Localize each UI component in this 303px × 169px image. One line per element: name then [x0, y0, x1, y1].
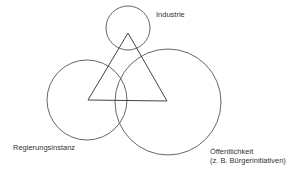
regierungsinstanz-label: Regierungsinstanz: [13, 143, 75, 152]
oeffentlichkeit-label: Öffentlichkeit (z. B. Bürgerinitiativen): [210, 147, 286, 165]
oeffentlichkeit-circle: [115, 49, 221, 155]
industrie-circle: [106, 6, 150, 50]
relationship-triangle: [88, 33, 167, 101]
industrie-label: Industrie: [156, 10, 185, 19]
oeffentlichkeit-label-line2: (z. B. Bürgerinitiativen): [210, 156, 286, 165]
oeffentlichkeit-label-line1: Öffentlichkeit: [210, 147, 286, 156]
